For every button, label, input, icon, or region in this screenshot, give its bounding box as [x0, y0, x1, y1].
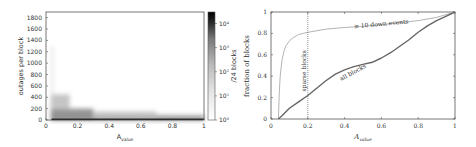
colorbar-tick-label: 103 — [219, 44, 229, 51]
left-x-tick-label: 0 — [44, 122, 48, 129]
left-y-ticks: 020040060080010001200140016001800 — [27, 14, 48, 123]
cdf-annotations: sparse blocks≥ 10 down eventsall blocks — [300, 12, 409, 119]
density-region-1 — [51, 109, 94, 118]
left-x-tick-label: 1 — [202, 122, 206, 129]
sparse-blocks-label: sparse blocks — [300, 50, 308, 91]
colorbar-tick-label: 100 — [219, 116, 229, 123]
heatmap-density — [51, 46, 204, 120]
right-x-tick-label: 0.2 — [303, 122, 313, 129]
right-y-label: fraction of blocks — [243, 35, 251, 97]
colorbar-tick-label: 101 — [219, 92, 229, 99]
heatmap-panel: 00.20.40.60.81 0200400600800100012001400… — [17, 12, 238, 142]
left-y-label: outages per block — [17, 37, 25, 96]
left-x-label: Avalue — [117, 133, 134, 142]
right-y-tick-label: 0.2 — [257, 94, 267, 101]
left-y-tick-label: 1400 — [27, 36, 42, 43]
left-y-tick-label: 1800 — [27, 14, 42, 21]
left-y-tick-label: 200 — [31, 105, 43, 112]
figure: 00.20.40.60.81 0200400600800100012001400… — [0, 0, 476, 147]
colorbar-tick-label: 102 — [219, 68, 229, 75]
colorbar-tick-label: 104 — [219, 20, 230, 27]
left-x-tick-label: 0.2 — [73, 122, 83, 129]
right-x-tick-label: 0.8 — [413, 122, 423, 129]
left-y-tick-label: 1200 — [27, 48, 42, 55]
density-region-5 — [52, 46, 54, 94]
left-y-tick-label: 1000 — [27, 59, 42, 66]
colorbar — [208, 12, 215, 120]
left-x-tick-label: 0.6 — [136, 122, 146, 129]
left-x-tick-label: 0.8 — [168, 122, 178, 129]
right-y-tick-label: 0.4 — [257, 72, 267, 79]
left-y-tick-label: 400 — [31, 93, 43, 100]
density-blur-group — [51, 46, 204, 120]
right-x-label: Avalue — [353, 133, 372, 142]
left-y-tick-label: 1600 — [27, 25, 42, 32]
right-x-tick-label: 0.6 — [377, 122, 387, 129]
colorbar-label: /24 blocks — [230, 49, 238, 83]
ge10-down-events-label: ≥ 10 down events — [354, 18, 409, 30]
density-region-2 — [51, 94, 70, 108]
right-y-tick-label: 0.6 — [257, 51, 267, 58]
all-blocks-label: all blocks — [338, 62, 367, 82]
colorbar-ticks: 100101102103104 — [215, 20, 230, 123]
right-x-tick-label: 0 — [269, 122, 273, 129]
right-x-tick-label: 0.4 — [340, 122, 350, 129]
right-x-tick-label: 1 — [453, 122, 457, 129]
left-x-tick-label: 0.4 — [104, 122, 114, 129]
right-x-ticks: 00.20.40.60.81 — [269, 12, 457, 129]
right-y-tick-label: 0.8 — [257, 29, 267, 36]
left-y-tick-label: 0 — [38, 116, 42, 123]
left-y-tick-label: 600 — [31, 82, 43, 89]
density-region-4 — [157, 115, 204, 118]
left-y-tick-label: 800 — [31, 71, 43, 78]
cdf-panel: 00.20.40.60.81 00.20.40.60.81 sparse blo… — [243, 8, 457, 142]
density-region-3 — [93, 111, 156, 117]
right-y-tick-label: 0 — [263, 115, 267, 122]
right-y-tick-label: 1 — [263, 8, 267, 15]
